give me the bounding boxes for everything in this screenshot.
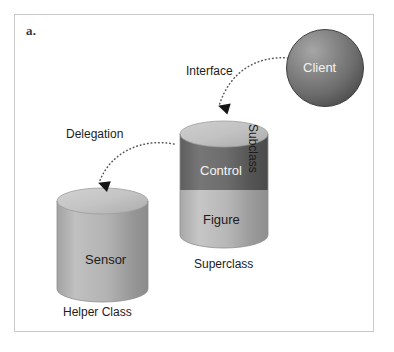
figure-panel: a.: [0, 0, 394, 352]
figure-segment-label: Figure: [203, 213, 240, 226]
subclass-label: Subclass: [247, 124, 259, 173]
interface-connector-label: Interface: [186, 65, 233, 77]
diagram-canvas: [0, 0, 394, 352]
connector-delegation: [99, 143, 174, 183]
client-label: Client: [303, 61, 336, 74]
delegation-connector-label: Delegation: [66, 128, 123, 140]
node-helper-cylinder[interactable]: [57, 188, 148, 302]
helper-class-label: Helper Class: [63, 306, 132, 318]
sensor-label: Sensor: [85, 253, 126, 266]
delegation-arrow-path: [99, 143, 174, 183]
sensor-cylinder-top-face: [57, 188, 148, 214]
superclass-label: Superclass: [194, 258, 253, 270]
control-segment-label: Control: [200, 164, 242, 177]
